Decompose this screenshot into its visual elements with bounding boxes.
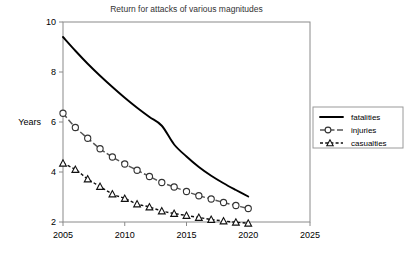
series-line-fatalities	[63, 37, 248, 197]
legend-marker-circle	[325, 127, 331, 133]
marker-circle-injuries	[183, 188, 189, 194]
y-tick-label: 4	[51, 167, 56, 177]
marker-triangle-casualties	[72, 166, 79, 172]
chart-container: Return for attacks of various magnitudes…	[0, 0, 411, 256]
legend-label-injuries: injuries	[351, 126, 376, 135]
marker-circle-injuries	[85, 135, 91, 141]
marker-triangle-casualties	[60, 160, 67, 166]
x-tick-label: 2015	[176, 230, 196, 240]
series-line-casualties	[63, 163, 248, 223]
marker-circle-injuries	[220, 199, 226, 205]
chart-title: Return for attacks of various magnitudes	[110, 4, 263, 14]
marker-triangle-casualties	[245, 220, 252, 226]
marker-circle-injuries	[97, 146, 103, 152]
x-tick-label: 2010	[115, 230, 135, 240]
marker-triangle-casualties	[109, 191, 116, 197]
marker-triangle-casualties	[158, 208, 165, 214]
marker-circle-injuries	[171, 184, 177, 190]
marker-circle-injuries	[245, 205, 251, 211]
marker-circle-injuries	[233, 202, 239, 208]
x-tick-label: 2020	[238, 230, 258, 240]
marker-circle-injuries	[122, 161, 128, 167]
y-tick-label: 2	[51, 217, 56, 227]
marker-circle-injuries	[72, 124, 78, 130]
series-line-injuries	[63, 113, 248, 208]
marker-triangle-casualties	[97, 183, 104, 189]
y-axis-label: Years	[18, 117, 41, 127]
x-tick-label: 2025	[300, 230, 320, 240]
y-tick-label: 10	[46, 17, 56, 27]
x-tick-label: 2005	[53, 230, 73, 240]
y-tick-label: 8	[51, 67, 56, 77]
marker-circle-injuries	[109, 154, 115, 160]
marker-circle-injuries	[208, 196, 214, 202]
line-chart: Return for attacks of various magnitudes…	[0, 0, 411, 256]
legend-label-fatalities: fatalities	[351, 113, 380, 122]
marker-circle-injuries	[134, 167, 140, 173]
marker-circle-injuries	[196, 193, 202, 199]
marker-triangle-casualties	[84, 176, 91, 182]
marker-circle-injuries	[159, 179, 165, 185]
legend-label-casualties: casualties	[351, 139, 387, 148]
marker-triangle-casualties	[220, 218, 227, 224]
marker-circle-injuries	[60, 110, 66, 116]
marker-circle-injuries	[146, 173, 152, 179]
marker-triangle-casualties	[134, 201, 141, 207]
y-tick-label: 6	[51, 117, 56, 127]
